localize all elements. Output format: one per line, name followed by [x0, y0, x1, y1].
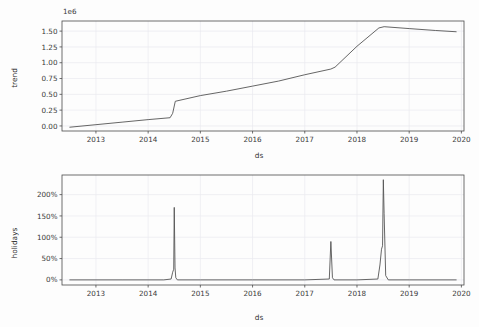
- svg-text:1.00: 1.00: [41, 58, 57, 67]
- trend-line: [70, 27, 456, 128]
- trend-axes-frame: [62, 21, 464, 131]
- figure-canvas: 201320142015201620172018201920200.000.25…: [0, 0, 479, 327]
- svg-text:2013: 2013: [87, 289, 105, 298]
- svg-text:2018: 2018: [348, 289, 367, 298]
- svg-text:2015: 2015: [191, 289, 209, 298]
- svg-text:150%: 150%: [37, 212, 58, 221]
- trend-gridlines: [62, 21, 464, 131]
- svg-text:2016: 2016: [243, 135, 262, 144]
- svg-text:1.50: 1.50: [41, 27, 57, 36]
- svg-text:0%: 0%: [46, 275, 58, 284]
- trend-ticks: [60, 31, 462, 133]
- svg-text:2016: 2016: [243, 289, 262, 298]
- trend-y-axis-title: trend: [10, 68, 19, 88]
- holidays-x-axis-title: ds: [255, 313, 264, 322]
- svg-text:2014: 2014: [139, 289, 158, 298]
- trend-x-axis-title: ds: [255, 151, 264, 160]
- svg-text:2020: 2020: [452, 135, 471, 144]
- svg-text:0.50: 0.50: [41, 90, 57, 99]
- subplot-trend: 201320142015201620172018201920200.000.25…: [0, 0, 479, 163]
- svg-text:1.25: 1.25: [41, 43, 57, 52]
- holidays-plot-svg: 201320142015201620172018201920200%50%100…: [0, 163, 479, 327]
- holidays-ticks: [60, 195, 462, 288]
- svg-text:2017: 2017: [296, 135, 314, 144]
- svg-text:2018: 2018: [348, 135, 367, 144]
- trend-y-offset-text: 1e6: [63, 7, 77, 16]
- svg-text:2013: 2013: [87, 135, 105, 144]
- svg-text:2014: 2014: [139, 135, 158, 144]
- svg-text:0.25: 0.25: [41, 106, 57, 115]
- holidays-axes-frame: [62, 175, 464, 285]
- svg-text:0.00: 0.00: [41, 122, 57, 131]
- svg-text:0.75: 0.75: [41, 74, 57, 83]
- svg-text:2015: 2015: [191, 135, 209, 144]
- svg-text:2020: 2020: [452, 289, 471, 298]
- trend-plot-svg: 201320142015201620172018201920200.000.25…: [0, 0, 479, 163]
- subplot-holidays: 201320142015201620172018201920200%50%100…: [0, 163, 479, 327]
- svg-text:2017: 2017: [296, 289, 314, 298]
- holidays-tick-labels: 201320142015201620172018201920200%50%100…: [37, 190, 471, 298]
- holidays-gridlines: [62, 175, 464, 285]
- svg-text:100%: 100%: [37, 233, 58, 242]
- svg-text:200%: 200%: [37, 190, 58, 199]
- holidays-y-axis-title: holidays: [10, 227, 19, 258]
- svg-text:2019: 2019: [400, 289, 419, 298]
- svg-text:50%: 50%: [42, 254, 58, 263]
- svg-text:2019: 2019: [400, 135, 419, 144]
